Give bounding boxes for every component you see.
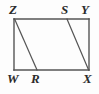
vertex-label-r: R xyxy=(31,72,40,85)
vertex-label-w: W xyxy=(7,72,19,85)
vertex-label-s: S xyxy=(61,3,68,16)
segment-zr-diagonal xyxy=(15,19,37,70)
vertex-label-x: X xyxy=(83,72,92,85)
geometry-figure: Z S Y W R X xyxy=(0,0,99,94)
interior-segments xyxy=(15,19,89,70)
segment-sx-diagonal xyxy=(67,19,89,70)
vertex-label-z: Z xyxy=(9,3,17,16)
vertex-label-y: Y xyxy=(81,3,89,16)
